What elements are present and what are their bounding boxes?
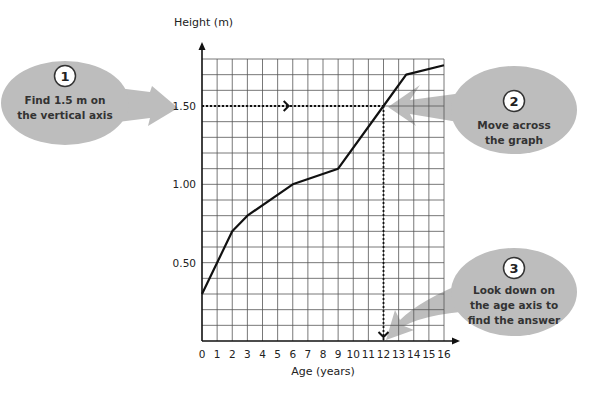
x-tick-label: 5 bbox=[274, 348, 281, 360]
callout-2-text: the graph bbox=[485, 134, 543, 146]
x-tick-label: 7 bbox=[305, 348, 312, 360]
axes bbox=[199, 42, 461, 345]
x-tick-label: 10 bbox=[347, 348, 360, 360]
x-axis-arrow-icon bbox=[452, 338, 460, 345]
callout-1-step-number: 1 bbox=[60, 69, 69, 84]
x-tick-label: 6 bbox=[289, 348, 296, 360]
callout-3-step-number: 3 bbox=[509, 261, 518, 276]
y-tick-label: 1.00 bbox=[173, 178, 196, 190]
x-tick-label: 9 bbox=[335, 348, 342, 360]
height-age-chart: 0123456789101112131415160.501.001.50 1Fi… bbox=[0, 0, 592, 394]
x-axis-title: Age (years) bbox=[291, 365, 355, 378]
x-tick-label: 4 bbox=[259, 348, 266, 360]
x-tick-label: 13 bbox=[392, 348, 405, 360]
callout-3-text: Look down on bbox=[473, 284, 555, 296]
x-tick-label: 12 bbox=[377, 348, 390, 360]
x-tick-label: 8 bbox=[320, 348, 327, 360]
x-tick-label: 0 bbox=[199, 348, 206, 360]
callout-2-text: Move across bbox=[477, 119, 551, 131]
callout-2-step-number: 2 bbox=[509, 94, 518, 109]
x-tick-label: 2 bbox=[229, 348, 236, 360]
callout-3-text: the age axis to bbox=[470, 299, 558, 311]
y-axis-title: Height (m) bbox=[174, 16, 233, 29]
x-tick-label: 16 bbox=[437, 348, 451, 360]
x-tick-label: 15 bbox=[422, 348, 435, 360]
x-tick-label: 11 bbox=[362, 348, 375, 360]
y-tick-label: 1.50 bbox=[173, 100, 196, 112]
y-axis-arrow-icon bbox=[199, 42, 206, 50]
y-tick-label: 0.50 bbox=[173, 257, 196, 269]
x-tick-label: 14 bbox=[407, 348, 421, 360]
callout-1-text: the vertical axis bbox=[17, 109, 112, 121]
callout-3-text: find the answer bbox=[468, 314, 561, 326]
x-tick-label: 3 bbox=[244, 348, 251, 360]
x-tick-label: 1 bbox=[214, 348, 221, 360]
callout-1-text: Find 1.5 m on bbox=[25, 94, 106, 106]
